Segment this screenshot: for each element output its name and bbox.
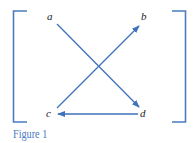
edge-c-to-b	[57, 26, 139, 108]
node-label-d: d	[140, 107, 146, 119]
figure-caption: Figure 1	[13, 127, 47, 142]
node-label-a: a	[47, 10, 53, 22]
edge-a-to-d	[57, 24, 139, 107]
diagram-canvas: a b c d	[0, 0, 195, 143]
node-label-c: c	[46, 107, 51, 119]
node-label-b: b	[141, 10, 147, 22]
right-bracket	[172, 11, 186, 122]
left-bracket	[14, 11, 28, 122]
